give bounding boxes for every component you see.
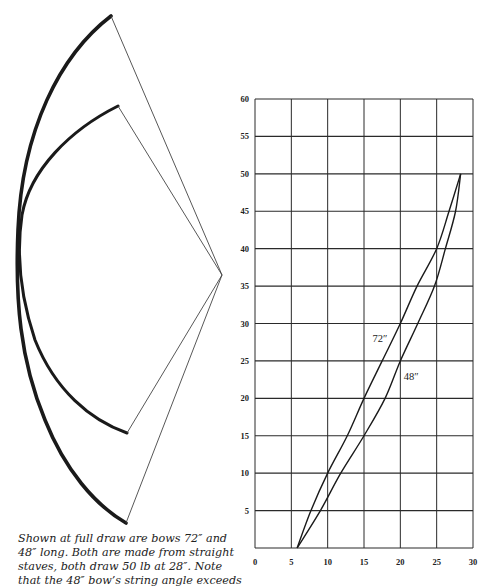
bow-72-string <box>111 16 222 523</box>
x-tick-label: 10 <box>323 557 332 567</box>
caption-line: Shown at full draw are bows 72″ and <box>18 532 243 546</box>
bow-72-limbs <box>17 16 126 523</box>
y-tick-label: 40 <box>241 244 250 254</box>
chart-grid <box>255 99 473 548</box>
y-tick-label: 45 <box>241 206 250 216</box>
x-tick-label: 5 <box>289 557 293 567</box>
y-axis-tick-labels: 51015202530354045505560 <box>241 94 250 516</box>
y-tick-label: 60 <box>241 94 250 104</box>
x-tick-label: 25 <box>432 557 441 567</box>
curve-label: 48″ <box>404 371 419 382</box>
bow-48-string <box>118 106 222 433</box>
y-tick-label: 35 <box>241 281 250 291</box>
bow-illustration <box>17 16 222 523</box>
force-draw-chart: 51015202530354045505560 051015202530 72″… <box>241 94 478 567</box>
y-tick-label: 55 <box>241 131 250 141</box>
x-tick-label: 20 <box>396 557 405 567</box>
caption-line: that the 48″ bow’s string angle exceeds <box>18 574 243 587</box>
bow-diagram-figure: 51015202530354045505560 051015202530 72″… <box>0 0 489 587</box>
figure-caption: Shown at full draw are bows 72″ and 48″ … <box>18 532 243 587</box>
curve-label: 72″ <box>373 333 388 344</box>
caption-line: staves, both draw 50 lb at 28″. Note <box>18 560 243 574</box>
y-tick-label: 25 <box>241 356 250 366</box>
y-tick-label: 30 <box>241 319 250 329</box>
y-tick-label: 50 <box>241 169 250 179</box>
bow-48-limbs <box>19 106 127 433</box>
x-tick-label: 0 <box>253 557 257 567</box>
x-tick-label: 30 <box>469 557 478 567</box>
x-tick-label: 15 <box>360 557 369 567</box>
y-tick-label: 20 <box>241 393 250 403</box>
y-tick-label: 15 <box>241 431 250 441</box>
y-tick-label: 10 <box>241 468 250 478</box>
caption-line: 48″ long. Both are made from straight <box>18 546 243 560</box>
y-tick-label: 5 <box>245 506 249 516</box>
x-axis-tick-labels: 051015202530 <box>253 557 477 567</box>
